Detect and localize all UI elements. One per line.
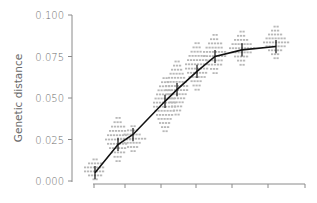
scatter-point: [111, 139, 113, 141]
scatter-point: [179, 110, 181, 112]
scatter-point: [183, 97, 185, 99]
scatter-point: [158, 118, 160, 120]
scatter-point: [170, 110, 172, 112]
scatter-point: [190, 72, 192, 74]
scatter-point: [183, 77, 185, 79]
scatter-point: [167, 118, 169, 120]
scatter-point: [246, 56, 248, 58]
scatter-point: [274, 34, 276, 36]
scatter-point: [84, 167, 86, 169]
scatter-point: [156, 94, 158, 96]
scatter-point: [204, 76, 206, 78]
scatter-point: [161, 110, 163, 112]
scatter-point: [221, 51, 223, 53]
scatter-point: [131, 150, 133, 152]
scatter-point: [201, 55, 203, 57]
scatter-point: [156, 114, 158, 116]
scatter-point: [175, 114, 177, 116]
scatter-point: [164, 118, 166, 120]
scatter-point: [141, 138, 143, 140]
scatter-point: [162, 114, 164, 116]
scatter-point: [124, 134, 126, 136]
scatter-point: [232, 47, 234, 49]
scatter-point: [247, 43, 249, 45]
scatter-point: [129, 138, 131, 140]
scatter-point: [183, 85, 185, 87]
scatter-point: [196, 59, 198, 61]
scatter-point: [168, 114, 170, 116]
scatter-point: [108, 139, 110, 141]
scatter-point: [173, 101, 175, 103]
scatter-point: [116, 117, 118, 119]
y-axis: 0.100 0.075 0.050 0.025 0.000: [35, 10, 72, 187]
scatter-point: [113, 143, 115, 145]
scatter-point: [112, 130, 114, 132]
scatter-point: [117, 156, 119, 158]
scatter-point: [127, 146, 129, 148]
scatter-point: [185, 93, 187, 95]
scatter-point: [194, 80, 196, 82]
scatter-point: [107, 134, 109, 136]
scatter-point: [275, 38, 277, 40]
scatter-point: [159, 114, 161, 116]
genetic-distance-chart: Genetic distance 0.100 0.075 0.050 0.025…: [0, 0, 317, 203]
scatter-point: [203, 68, 205, 70]
scatter-point: [277, 34, 279, 36]
scatter-point: [198, 55, 200, 57]
scatter-point: [177, 69, 179, 71]
scatter-point: [188, 63, 190, 65]
scatter-point: [90, 171, 92, 173]
scatter-point: [224, 55, 226, 57]
scatter-point: [194, 63, 196, 65]
scatter-point: [158, 98, 160, 100]
scatter-point: [203, 51, 205, 53]
scatter-point: [105, 139, 107, 141]
scatter-point: [114, 121, 116, 123]
scatter-point: [266, 38, 268, 40]
scatter-point: [271, 53, 273, 55]
scatter-point: [93, 178, 95, 180]
scatter-point: [120, 156, 122, 158]
scatter-point: [191, 80, 193, 82]
scatter-point: [159, 94, 161, 96]
scatter-point: [218, 47, 220, 49]
scatter-point: [164, 81, 166, 83]
scatter-point: [274, 30, 276, 32]
scatter-point: [173, 81, 175, 83]
scatter-point: [191, 51, 193, 53]
scatter-point: [179, 93, 181, 95]
scatter-point: [123, 152, 125, 154]
scatter-point: [111, 126, 113, 128]
scatter-point: [216, 68, 218, 70]
scatter-point: [90, 167, 92, 169]
scatter-point: [215, 47, 217, 49]
scatter-point: [164, 126, 166, 128]
scatter-point: [119, 160, 121, 162]
y-axis-title: Genetic distance: [12, 54, 24, 142]
scatter-point: [127, 142, 129, 144]
scatter-point: [161, 118, 163, 120]
scatter-point: [114, 139, 116, 141]
scatter-point: [166, 130, 168, 132]
scatter-point: [243, 56, 245, 58]
scatter-point: [200, 63, 202, 65]
scatter-point: [97, 163, 99, 165]
scatter-point: [220, 43, 222, 45]
scatter-point: [174, 97, 176, 99]
scatter-point: [167, 81, 169, 83]
scatter-point: [165, 85, 167, 87]
scatter-point: [119, 134, 121, 136]
scatter-point: [124, 130, 126, 132]
scatter-point: [162, 85, 164, 87]
scatter-point: [161, 126, 163, 128]
scatter-point: [107, 143, 109, 145]
scatter-point: [280, 49, 282, 51]
scatter-point: [278, 38, 280, 40]
scatter-point: [171, 85, 173, 87]
scatter-point: [163, 77, 165, 79]
scatter-point: [120, 126, 122, 128]
scatter-point: [193, 47, 195, 49]
scatter-point: [220, 64, 222, 66]
scatter-point: [188, 68, 190, 70]
scatter-point: [217, 64, 219, 66]
